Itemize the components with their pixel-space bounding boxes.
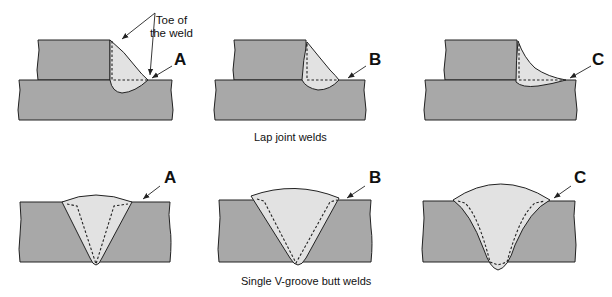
weld-diagram	[0, 0, 612, 297]
lap-joint-c	[424, 40, 591, 120]
annotation-line-2: the weld	[150, 27, 193, 40]
lap-caption: Lap joint welds	[254, 131, 327, 143]
annotation-line-1: Toe of	[150, 14, 193, 27]
v-groove-b	[218, 186, 372, 265]
groove-caption: Single V-groove butt welds	[241, 275, 371, 287]
v-groove-a	[19, 186, 171, 265]
v-groove-c	[422, 184, 576, 270]
bottom-plate	[18, 80, 173, 120]
top-plate	[37, 40, 110, 80]
lap-label-c: C	[592, 50, 604, 70]
groove-label-c: C	[574, 168, 586, 188]
lap-joint-b	[214, 40, 366, 120]
groove-label-a: A	[164, 168, 176, 188]
toe-of-weld-annotation: Toe of the weld	[150, 14, 193, 40]
lap-label-a: A	[174, 50, 186, 70]
weld-bead	[110, 40, 148, 93]
groove-label-b: B	[369, 168, 381, 188]
lap-label-b: B	[369, 50, 381, 70]
